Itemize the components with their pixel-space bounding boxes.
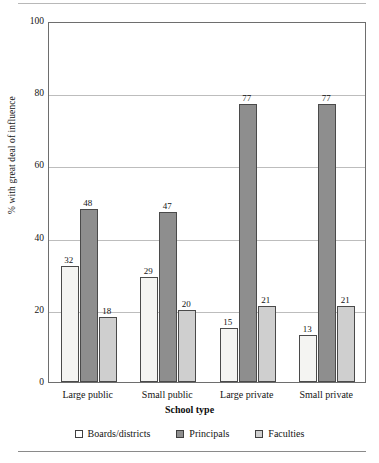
y-tick-label: 0 [4,378,44,388]
figure: 020406080100 % with great deal of influe… [0,0,379,463]
bar-large-private-series-1 [239,104,257,382]
bar-large-private-series-2 [258,306,276,382]
legend: Boards/districtsPrincipalsFaculties [0,428,379,439]
bar-value-label: 48 [73,199,103,208]
series-0-swatch [75,430,83,438]
bar-large-private-series-0 [220,328,238,382]
bar-large-public-series-1 [80,209,98,382]
bar-small-private-series-0 [299,335,317,382]
bar-small-public-series-2 [178,310,196,382]
x-axis-label: School type [0,404,379,415]
bar-large-public-series-2 [99,317,117,382]
legend-label: Principals [189,428,229,439]
bar-value-label: 21 [330,296,360,305]
bar-small-private-series-2 [337,306,355,382]
series-1-swatch [176,430,184,438]
bar-value-label: 32 [54,256,84,265]
x-tick-label: Small private [276,389,376,400]
bar-value-label: 21 [251,296,281,305]
legend-item: Faculties [255,428,304,439]
bar-value-label: 77 [232,94,262,103]
legend-label: Boards/districts [88,428,151,439]
series-2-swatch [255,430,263,438]
y-axis-label: % with great deal of influence [7,0,17,315]
legend-item: Principals [176,428,229,439]
top-rule [18,3,366,4]
bar-value-label: 18 [92,307,122,316]
legend-item: Boards/districts [75,428,151,439]
bar-value-label: 77 [311,94,341,103]
bar-small-public-series-1 [159,212,177,382]
bar-value-label: 13 [292,325,322,334]
bar-small-private-series-1 [318,104,336,382]
bottom-rule [18,451,366,452]
legend-label: Faculties [268,428,304,439]
bar-large-public-series-0 [61,266,79,382]
bar-value-label: 29 [133,267,163,276]
bar-value-label: 15 [213,318,243,327]
bar-value-label: 20 [171,300,201,309]
bar-small-public-series-0 [140,277,158,382]
bar-value-label: 47 [152,202,182,211]
